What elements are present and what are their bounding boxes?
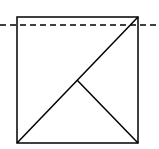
diagram-canvas xyxy=(0,0,159,149)
folded-square-diagram xyxy=(0,0,159,149)
inner-segment-line xyxy=(77,80,138,143)
